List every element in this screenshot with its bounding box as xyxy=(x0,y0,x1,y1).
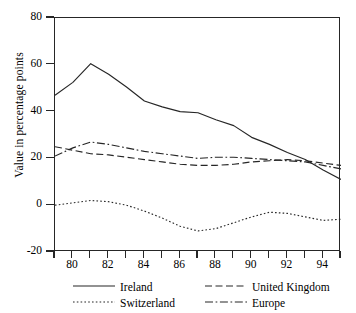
y-tick-label: 80 xyxy=(0,11,42,23)
x-tick-mark xyxy=(143,251,144,258)
x-tick-label: 86 xyxy=(167,259,191,271)
series-line-switzerland xyxy=(55,201,341,231)
x-tick-mark xyxy=(71,251,72,258)
chart-figure: Value in percentage points 806040200-20 … xyxy=(0,0,356,313)
x-tick-label: 92 xyxy=(274,259,298,271)
plot-area xyxy=(54,17,340,251)
legend-label-europe: Europe xyxy=(250,297,330,309)
y-tick-label: 60 xyxy=(0,58,42,70)
y-tick-label: 20 xyxy=(0,151,42,163)
y-tick-mark xyxy=(46,204,54,205)
x-tick-mark xyxy=(107,251,108,258)
x-tick-mark xyxy=(179,251,180,258)
x-tick-mark xyxy=(89,251,90,258)
legend-swatch-ireland xyxy=(72,281,118,293)
x-tick-mark xyxy=(53,251,54,258)
x-tick-label: 94 xyxy=(310,259,334,271)
series-line-ireland xyxy=(55,64,341,180)
x-tick-mark xyxy=(196,251,197,258)
legend-label-switzerland: Switzerland xyxy=(118,297,204,309)
x-tick-mark xyxy=(214,251,215,258)
legend-swatch-europe xyxy=(204,297,250,309)
x-tick-mark xyxy=(232,251,233,258)
legend-swatch-united-kingdom xyxy=(204,281,250,293)
x-tick-mark xyxy=(322,251,323,258)
x-tick-label: 84 xyxy=(131,259,155,271)
x-tick-mark xyxy=(250,251,251,258)
y-tick-mark xyxy=(46,157,54,158)
x-tick-mark xyxy=(286,251,287,258)
y-tick-mark xyxy=(46,16,54,17)
y-tick-label: -20 xyxy=(0,245,42,257)
x-tick-label: 88 xyxy=(203,259,227,271)
legend-swatch-switzerland xyxy=(72,297,118,309)
chart-legend: IrelandUnited KingdomSwitzerlandEurope xyxy=(72,281,322,309)
x-tick-label: 82 xyxy=(96,259,120,271)
x-tick-label: 80 xyxy=(60,259,84,271)
x-tick-mark xyxy=(304,251,305,258)
legend-label-ireland: Ireland xyxy=(118,281,204,293)
series-line-europe xyxy=(55,142,341,169)
x-tick-mark xyxy=(268,251,269,258)
legend-label-united-kingdom: United Kingdom xyxy=(250,281,330,293)
y-tick-label: 40 xyxy=(0,105,42,117)
series-canvas xyxy=(55,18,341,252)
x-tick-mark xyxy=(339,251,340,258)
x-tick-mark xyxy=(125,251,126,258)
x-tick-mark xyxy=(161,251,162,258)
y-tick-mark xyxy=(46,63,54,64)
series-line-united-kingdom xyxy=(55,147,341,166)
y-tick-mark xyxy=(46,110,54,111)
y-tick-label: 0 xyxy=(0,198,42,210)
x-tick-label: 90 xyxy=(239,259,263,271)
